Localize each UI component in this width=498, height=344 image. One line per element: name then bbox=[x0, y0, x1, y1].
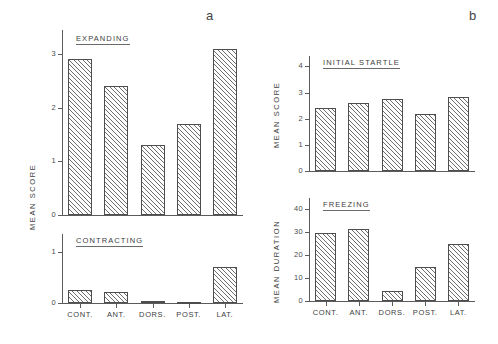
y-axis-line bbox=[62, 30, 63, 215]
y-tick bbox=[305, 145, 309, 146]
chart-initial-startle: 01234INITIAL STARTLE bbox=[285, 48, 475, 173]
y-tick bbox=[58, 108, 62, 109]
x-tick bbox=[425, 302, 426, 306]
y-tick bbox=[58, 54, 62, 55]
x-tick bbox=[189, 304, 190, 308]
y-axis-line bbox=[62, 234, 63, 303]
x-tick bbox=[153, 304, 154, 308]
bar bbox=[104, 86, 128, 215]
x-tick bbox=[80, 304, 81, 308]
y-tick-label: 30 bbox=[283, 227, 303, 236]
y-tick-label: 3 bbox=[283, 88, 303, 97]
bar bbox=[315, 108, 336, 171]
y-tick bbox=[305, 232, 309, 233]
x-axis-line bbox=[62, 215, 243, 216]
y-tick-label: 1 bbox=[36, 156, 56, 165]
bar bbox=[382, 291, 403, 301]
bar bbox=[213, 49, 237, 215]
panel-letter-b: b bbox=[469, 8, 477, 23]
y-tick-label: 2 bbox=[36, 103, 56, 112]
y-tick bbox=[305, 278, 309, 279]
x-tick bbox=[225, 304, 226, 308]
bar bbox=[415, 267, 436, 301]
bar bbox=[315, 233, 336, 301]
y-axis-line bbox=[309, 56, 310, 171]
y-tick-label: 1 bbox=[283, 140, 303, 149]
bar bbox=[348, 229, 369, 301]
chart-section-title: EXPANDING bbox=[76, 34, 130, 45]
y-tick bbox=[58, 215, 62, 216]
y-tick bbox=[305, 301, 309, 302]
y-tick bbox=[305, 119, 309, 120]
y-tick bbox=[305, 171, 309, 172]
y-axis-title-mean-score-b: MEAN SCORE bbox=[272, 82, 281, 148]
y-tick-label: 0 bbox=[283, 166, 303, 175]
y-tick-label: 10 bbox=[283, 273, 303, 282]
y-tick bbox=[305, 66, 309, 67]
x-tick bbox=[392, 302, 393, 306]
y-tick-label: 0 bbox=[36, 210, 56, 219]
x-category-label: LAT. bbox=[199, 310, 251, 319]
bar bbox=[448, 97, 469, 171]
y-tick bbox=[58, 161, 62, 162]
y-tick bbox=[58, 252, 62, 253]
bar bbox=[448, 244, 469, 301]
x-axis-line bbox=[309, 171, 475, 172]
y-axis-line bbox=[309, 198, 310, 301]
y-tick-label: 20 bbox=[283, 250, 303, 259]
y-tick bbox=[305, 209, 309, 210]
bar bbox=[104, 292, 128, 303]
y-axis-title-mean-score-a: MEAN SCORE bbox=[28, 164, 37, 230]
bar bbox=[177, 124, 201, 215]
bar bbox=[415, 114, 436, 172]
figure-root: a b 0123EXPANDING 01CONT.ANT.DORS.POST.L… bbox=[0, 0, 498, 344]
y-tick-label: 0 bbox=[283, 296, 303, 305]
x-tick bbox=[116, 304, 117, 308]
chart-section-title: CONTRACTING bbox=[76, 236, 143, 247]
y-tick-label: 0 bbox=[36, 298, 56, 307]
y-tick-label: 1 bbox=[36, 247, 56, 256]
chart-expanding: 0123EXPANDING bbox=[38, 20, 243, 215]
y-tick-label: 4 bbox=[283, 61, 303, 70]
y-tick-label: 40 bbox=[283, 204, 303, 213]
y-tick bbox=[305, 93, 309, 94]
y-tick bbox=[58, 303, 62, 304]
bar bbox=[382, 99, 403, 171]
chart-section-title: FREEZING bbox=[323, 200, 370, 211]
chart-freezing: 010203040CONT.ANT.DORS.POST.LAT.FREEZING bbox=[285, 190, 475, 315]
bar bbox=[68, 290, 92, 303]
x-tick bbox=[458, 302, 459, 306]
bar bbox=[348, 103, 369, 171]
x-category-label: LAT. bbox=[432, 308, 484, 317]
y-tick bbox=[305, 255, 309, 256]
bar bbox=[141, 145, 165, 215]
chart-section-title: INITIAL STARTLE bbox=[323, 58, 400, 69]
chart-contracting: 01CONT.ANT.DORS.POST.LAT.CONTRACTING bbox=[38, 232, 243, 317]
y-axis-title-mean-duration: MEAN DURATION bbox=[272, 220, 281, 303]
x-tick bbox=[359, 302, 360, 306]
bar bbox=[68, 59, 92, 215]
y-tick-label: 2 bbox=[283, 114, 303, 123]
x-tick bbox=[326, 302, 327, 306]
y-tick-label: 3 bbox=[36, 49, 56, 58]
bar bbox=[213, 267, 237, 303]
